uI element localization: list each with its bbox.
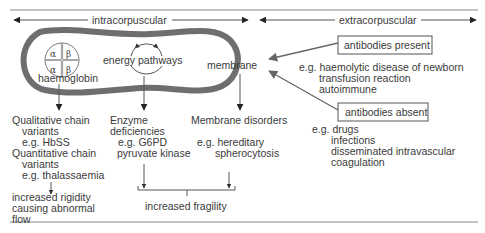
dic-example-line-2: coagulation [331,156,385,168]
antibodies-present-examples: e.g. haemolytic disease of newborn trans… [299,61,464,95]
haemoglobin-label: haemoglobin [38,72,98,84]
enzyme-deficiencies-list: Enzyme deficiencies e.g. G6PD pyruvate k… [110,114,191,159]
haemolysis-causes-diagram: intracorpuscular extracorpuscular α β α … [0,0,485,233]
membrane-label: membrane [207,59,257,71]
rigidity-line-3: flow [12,213,31,225]
energy-pathways-label: energy pathways [103,54,182,66]
membrane-disorders-list: Membrane disorders e.g. hereditary spher… [191,114,287,159]
fragility-bracket [138,164,235,196]
intracorpuscular-label: intracorpuscular [92,14,167,26]
pyruvate-kinase-example: pyruvate kinase [117,147,191,159]
haemoglobin-disorders-list: Qualitative chain variants e.g. HbSS Qua… [12,114,104,181]
antibodies-present-label: antibodies present [344,39,430,51]
antibodies-present-arrow [269,43,338,59]
antibodies-absent-label: antibodies absent [345,106,427,118]
extracorpuscular-label: extracorpuscular [339,14,417,26]
antibodies-absent-examples: e.g. drugs infections disseminated intra… [312,123,456,168]
increased-fragility-label: increased fragility [145,200,227,212]
membrane-disorders-line: Membrane disorders [191,114,287,126]
thalassaemia-example: e.g. thalassaemia [22,169,104,181]
alpha-chain-1: α [50,49,56,59]
extracorpuscular-span: extracorpuscular [260,14,476,26]
beta-chain-1: β [66,49,71,59]
increased-rigidity-outcome: increased rigidity causing abnormal flow [12,191,95,225]
autoimmune-example: autoimmune [319,83,377,95]
intracorpuscular-span: intracorpuscular [14,14,248,26]
spherocytosis-example: spherocytosis [215,147,279,159]
